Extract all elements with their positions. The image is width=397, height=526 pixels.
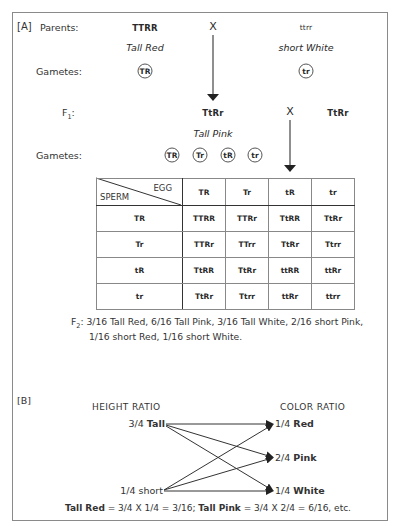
table-row: tr TtRr Ttrr ttRr ttrr [97,284,355,310]
punnett-corner: EGG SPERM [97,179,183,206]
height-ratio-tall: 3/4 Tall [128,419,165,429]
height-ratio-title: HEIGHT RATIO [92,403,161,412]
gamete-circle: Tr [193,148,208,163]
gamete-circle: TR [138,64,153,79]
parents-label: Parents: [40,23,79,33]
gamete-label: tr [302,67,309,76]
color-ratio-title: COLOR RATIO [280,403,345,412]
genotype-cell: ttRr [312,258,355,284]
f1-phenotype: Tall Pink [194,129,233,139]
parent1-genotype: TTRR [132,24,158,33]
parent-cross-symbol: X [209,21,217,32]
genotype-cell: Ttrr [226,284,269,310]
gamete-label: TR [140,67,151,76]
egg-header: Tr [226,179,269,206]
genotype-cell: Ttrr [312,232,355,258]
genotype-cell: ttRR [269,258,312,284]
f1-genotype-right: TtRr [327,109,348,118]
genotype-cell: ttrr [312,284,355,310]
egg-header: tR [269,179,312,206]
genotype-cell: TtRr [226,258,269,284]
f1-genotype-left: TtRr [202,109,223,118]
sperm-header: Tr [97,232,183,258]
sperm-header: TR [97,206,183,232]
probability-formula: Tall Red = 3/4 X 1/4 = 3/16; Tall Pink =… [65,504,351,513]
color-ratio-white: 1/4 White [275,486,325,496]
genotype-cell: TTrr [226,232,269,258]
sperm-header: tR [97,258,183,284]
color-ratio-pink: 2/4 Pink [275,453,317,463]
f1-cross-arrow-icon [284,120,296,172]
gamete-circle: tr [299,64,314,79]
genotype-cell: TtRr [312,206,355,232]
table-row: Tr TTRr TTrr TtRr Ttrr [97,232,355,258]
section-b-label: [B] [17,396,31,406]
section-a-label: [A] [17,22,32,32]
genotype-cell: TTRr [226,206,269,232]
parent-cross-arrow-icon [207,35,219,101]
parent2-phenotype: short White [278,43,333,53]
gamete-circle: TR [165,148,180,163]
f2-summary-line2: 1/16 short Red, 1/16 short White. [89,332,242,341]
f1-cross-symbol: X [286,106,294,117]
genotype-cell: TtRR [183,258,226,284]
gamete-circle: tR [221,148,236,163]
ratio-arrows-icon [164,424,272,491]
genotype-cell: TtRr [183,284,226,310]
genotype-cell: TtRr [269,232,312,258]
genotype-cell: TTRR [183,206,226,232]
f1-gametes-label: Gametes: [36,151,82,161]
egg-header: tr [312,179,355,206]
height-ratio-short: 1/4 short [120,486,163,496]
egg-label: EGG [153,183,172,193]
parent2-genotype: ttrr [300,24,313,32]
color-ratio-red: 1/4 Red [275,419,314,429]
parent1-phenotype: Tall Red [126,43,163,53]
table-row: tR TtRR TtRr ttRR ttRr [97,258,355,284]
gamete-circle: tr [248,148,263,163]
genotype-cell: ttRr [269,284,312,310]
punnett-square: EGG SPERM TR Tr tR tr TR TTRR TTRr TtRR … [96,178,355,310]
egg-header: TR [183,179,226,206]
sperm-label: SPERM [100,192,129,202]
f2-summary-line1: F2: 3/16 Tall Red, 6/16 Tall Pink, 3/16 … [71,317,363,329]
parent-gametes-label: Gametes: [36,67,82,77]
sperm-header: tr [97,284,183,310]
genotype-cell: TtRR [269,206,312,232]
table-row: TR TTRR TTRr TtRR TtRr [97,206,355,232]
punnett-header-row: EGG SPERM TR Tr tR tr [97,179,355,206]
genotype-cell: TTRr [183,232,226,258]
f1-label: F1: [62,108,75,120]
